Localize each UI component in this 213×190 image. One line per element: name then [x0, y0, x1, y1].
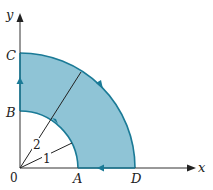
origin-label: 0 — [10, 171, 18, 185]
point-C-label: C — [6, 48, 16, 63]
point-D-label: D — [130, 171, 142, 186]
x-axis-arrow-icon — [187, 165, 196, 172]
radius-1-label: 1 — [43, 152, 51, 166]
point-A-label: A — [72, 171, 82, 186]
radius-2-label: 2 — [33, 138, 41, 152]
region-diagram: y x 0 A B C D 2 1 — [0, 0, 213, 190]
y-axis-arrow-icon — [17, 13, 24, 22]
y-axis-label: y — [5, 7, 14, 22]
x-axis-label: x — [198, 160, 206, 175]
point-B-label: B — [5, 105, 16, 120]
